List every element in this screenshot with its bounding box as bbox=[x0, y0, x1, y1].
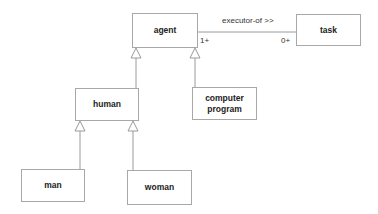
generalization-arrow-icon bbox=[131, 48, 141, 58]
target-multiplicity: 0+ bbox=[281, 36, 290, 45]
class-name-line2: program bbox=[207, 104, 241, 115]
class-name: woman bbox=[145, 182, 174, 193]
class-name: human bbox=[93, 99, 121, 110]
association-name: executor-of >> bbox=[222, 16, 274, 25]
class-box-human[interactable]: human bbox=[75, 88, 139, 121]
class-box-agent[interactable]: agent bbox=[132, 13, 198, 48]
class-name: task bbox=[320, 25, 337, 36]
class-name: agent bbox=[154, 25, 177, 36]
class-name-line1: computer bbox=[205, 93, 244, 104]
generalization-arrow-icon bbox=[75, 121, 85, 131]
class-box-woman[interactable]: woman bbox=[127, 170, 192, 205]
class-box-computer-program[interactable]: computer program bbox=[192, 87, 257, 120]
class-box-man[interactable]: man bbox=[21, 169, 85, 202]
generalization-arrow-icon bbox=[128, 121, 138, 131]
uml-diagram: agent task human computer program man wo… bbox=[0, 0, 378, 214]
source-multiplicity: 1+ bbox=[200, 36, 209, 45]
class-name: man bbox=[44, 180, 61, 191]
generalization-arrow-icon bbox=[190, 48, 200, 58]
class-box-task[interactable]: task bbox=[296, 14, 361, 46]
